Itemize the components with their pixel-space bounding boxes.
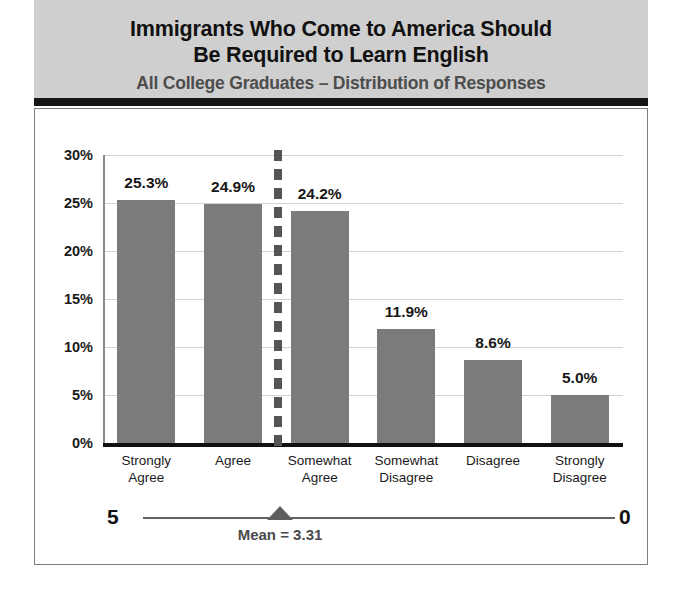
- title-line-1: Immigrants Who Come to America Should: [130, 17, 552, 41]
- category-label-line: Disagree: [528, 469, 632, 486]
- mean-marker-triangle-icon: [267, 506, 293, 520]
- scale-right-endpoint: 0: [619, 505, 631, 529]
- page-title: Immigrants Who Come to America Should Be…: [34, 0, 648, 68]
- mean-value-label: Mean = 3.31: [238, 526, 323, 543]
- chart-header: Immigrants Who Come to America Should Be…: [34, 0, 648, 98]
- category-label-line: Strongly: [528, 452, 632, 469]
- bar: [464, 360, 522, 443]
- bar: [377, 329, 435, 443]
- mean-divider-line: [274, 150, 282, 446]
- y-axis-tick-labels: 30%25%20%15%10%5%0%: [47, 0, 93, 589]
- y-axis-tick-label: 5%: [47, 387, 93, 403]
- x-axis-category-labels: StronglyAgreeAgreeSomewhatAgreeSomewhatD…: [103, 452, 623, 496]
- scale-left-endpoint: 5: [107, 505, 119, 529]
- bar: [117, 200, 175, 443]
- bar-value-label: 25.3%: [124, 174, 168, 192]
- bar: [551, 395, 609, 443]
- chart-subtitle: All College Graduates – Distribution of …: [34, 68, 648, 94]
- bar: [291, 211, 349, 443]
- category-label-line: Agree: [94, 469, 198, 486]
- header-divider-rule: [34, 98, 648, 106]
- bar: [204, 204, 262, 443]
- bar-value-label: 5.0%: [562, 369, 597, 387]
- x-axis-category-label: StronglyDisagree: [528, 452, 632, 486]
- x-axis-line: [103, 443, 623, 447]
- y-axis-tick-label: 30%: [47, 147, 93, 163]
- bar-value-label: 24.2%: [298, 185, 342, 203]
- bar-value-label: 11.9%: [385, 303, 428, 321]
- y-axis-tick-label: 0%: [47, 435, 93, 451]
- bars-layer: 25.3%24.9%24.2%11.9%8.6%5.0%: [103, 155, 623, 443]
- category-label-line: Disagree: [354, 469, 458, 486]
- y-axis-tick-label: 15%: [47, 291, 93, 307]
- y-axis-tick-label: 20%: [47, 243, 93, 259]
- bar-value-label: 24.9%: [211, 178, 255, 196]
- mean-scale: 5 0 Mean = 3.31: [103, 500, 633, 550]
- bar-value-label: 8.6%: [475, 334, 510, 352]
- scale-line: [143, 517, 615, 519]
- title-line-2: Be Required to Learn English: [34, 42, 648, 68]
- y-axis-tick-label: 25%: [47, 195, 93, 211]
- y-axis-tick-label: 10%: [47, 339, 93, 355]
